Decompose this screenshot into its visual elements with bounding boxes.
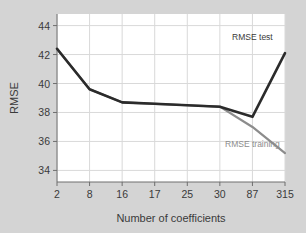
y-tick-label: 44 — [38, 20, 50, 32]
x-axis-title: Number of coefficients — [116, 212, 226, 224]
x-tick-label: 17 — [149, 188, 161, 200]
y-tick-label: 40 — [38, 78, 50, 90]
x-tick-label: 315 — [276, 188, 294, 200]
annotation-rmse-training: RMSE training — [225, 139, 280, 149]
rmse-line-chart: 343638404244 281617253087315 RMSE testRM… — [0, 0, 306, 233]
y-tick-label: 34 — [38, 164, 50, 176]
y-tick-label: 36 — [38, 135, 50, 147]
x-tick-label: 30 — [214, 188, 226, 200]
chart-figure: 343638404244 281617253087315 RMSE testRM… — [0, 0, 306, 233]
x-tick-label: 87 — [247, 188, 259, 200]
annotation-rmse-test: RMSE test — [232, 32, 273, 42]
x-tick-label: 25 — [181, 188, 193, 200]
x-tick-label: 2 — [54, 188, 60, 200]
x-tick-label: 16 — [116, 188, 128, 200]
y-axis-title: RMSE — [8, 82, 20, 114]
x-tick-label: 8 — [87, 188, 93, 200]
y-tick-label: 38 — [38, 106, 50, 118]
y-tick-label: 42 — [38, 49, 50, 61]
